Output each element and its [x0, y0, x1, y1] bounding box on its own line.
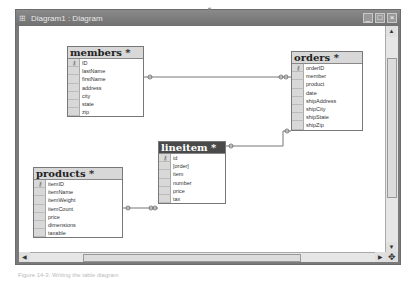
scroll-up-arrow[interactable]: ▲ — [386, 26, 397, 37]
diagram-window: ⊞ Diagram1 : Diagram _ □ × — [15, 9, 401, 265]
field-name: orderID — [304, 65, 324, 71]
field-name: city — [80, 93, 90, 99]
field-name: itemID — [46, 181, 64, 187]
field-name: shipState — [304, 114, 329, 120]
field-row[interactable]: ⚷itemID — [34, 180, 122, 188]
row-selector[interactable] — [34, 205, 46, 213]
row-selector[interactable] — [68, 84, 80, 92]
field-name: itemWeight — [46, 197, 75, 203]
row-selector[interactable] — [292, 121, 304, 129]
row-selector[interactable] — [68, 100, 80, 108]
diagram-canvas[interactable]: members * ⚷IDlastNamefirstNameaddresscit… — [19, 26, 386, 253]
row-selector[interactable] — [159, 195, 171, 203]
primary-key-icon[interactable]: ⚷ — [34, 180, 46, 188]
field-row[interactable]: price — [159, 187, 225, 195]
field-row[interactable]: itemWeight — [34, 196, 122, 204]
row-selector[interactable] — [292, 89, 304, 97]
vertical-scrollbar[interactable]: ▲ ▼ — [385, 26, 398, 253]
table-title: members * — [68, 47, 143, 59]
relationship-orders-lineitem[interactable] — [225, 129, 291, 148]
field-row[interactable]: [order] — [159, 162, 225, 170]
table-title: lineitem * — [159, 142, 225, 154]
primary-key-icon[interactable]: ⚷ — [292, 64, 304, 72]
field-name: date — [304, 90, 317, 96]
row-selector[interactable] — [68, 75, 80, 83]
field-row[interactable]: shipZip — [292, 121, 362, 129]
row-selector[interactable] — [292, 113, 304, 121]
scroll-left-arrow[interactable]: ◀ — [19, 252, 30, 262]
field-row[interactable]: date — [292, 89, 362, 97]
row-selector[interactable] — [68, 67, 80, 75]
row-selector[interactable] — [34, 213, 46, 221]
field-name: dimensions — [46, 222, 76, 228]
field-row[interactable]: member — [292, 72, 362, 80]
field-name: shipZip — [304, 122, 324, 128]
field-row[interactable]: tax — [159, 195, 225, 203]
field-row[interactable]: taxable — [34, 229, 122, 237]
field-row[interactable]: address — [68, 84, 143, 92]
row-selector[interactable] — [159, 179, 171, 187]
field-name: product — [304, 81, 324, 87]
field-name: price — [171, 188, 185, 194]
figure-caption: Figure 14-3: Writing the table diagram — [18, 272, 119, 278]
field-row[interactable]: shipState — [292, 113, 362, 121]
field-row[interactable]: firstName — [68, 75, 143, 83]
horizontal-scrollbar[interactable]: ◀ ▶ — [19, 252, 386, 262]
field-name: itemName — [46, 189, 73, 195]
table-orders[interactable]: orders * ⚷orderIDmemberproductdateshipAd… — [291, 51, 363, 131]
row-selector[interactable] — [68, 108, 80, 116]
field-name: tax — [171, 196, 180, 202]
primary-key-icon[interactable]: ⚷ — [159, 154, 171, 162]
field-name: address — [80, 85, 102, 91]
field-row[interactable]: city — [68, 92, 143, 100]
field-name: [order] — [171, 163, 189, 169]
field-row[interactable]: product — [292, 80, 362, 88]
row-selector[interactable] — [68, 92, 80, 100]
pan-move-icon[interactable]: ✥ — [385, 252, 398, 262]
table-lineitem[interactable]: lineitem * ⚷id[order]itemnumberpricetax — [158, 141, 226, 204]
row-selector[interactable] — [292, 97, 304, 105]
field-name: shipAddress — [304, 98, 336, 104]
row-selector[interactable] — [159, 170, 171, 178]
field-row[interactable]: ⚷id — [159, 154, 225, 162]
field-name: price — [46, 214, 60, 220]
relationship-members-orders[interactable] — [144, 75, 291, 79]
row-selector[interactable] — [34, 188, 46, 196]
row-selector[interactable] — [34, 229, 46, 237]
field-row[interactable]: shipAddress — [292, 97, 362, 105]
row-selector[interactable] — [292, 80, 304, 88]
field-row[interactable]: itemCount — [34, 205, 122, 213]
field-name: ID — [80, 60, 88, 66]
field-row[interactable]: dimensions — [34, 221, 122, 229]
field-row[interactable]: number — [159, 179, 225, 187]
table-members[interactable]: members * ⚷IDlastNamefirstNameaddresscit… — [67, 46, 144, 117]
field-row[interactable]: lastName — [68, 67, 143, 75]
field-row[interactable]: price — [34, 213, 122, 221]
row-selector[interactable] — [159, 162, 171, 170]
primary-key-icon[interactable]: ⚷ — [68, 59, 80, 67]
minimize-button[interactable]: _ — [363, 13, 373, 23]
row-selector[interactable] — [292, 105, 304, 113]
row-selector[interactable] — [34, 196, 46, 204]
relationship-products-lineitem[interactable] — [123, 206, 158, 210]
field-name: item — [171, 171, 183, 177]
field-row[interactable]: ⚷orderID — [292, 64, 362, 72]
field-row[interactable]: state — [68, 100, 143, 108]
field-name: number — [171, 180, 192, 186]
row-selector[interactable] — [159, 187, 171, 195]
field-name: firstName — [80, 76, 106, 82]
field-row[interactable]: zip — [68, 108, 143, 116]
field-row[interactable]: itemName — [34, 188, 122, 196]
horizontal-scroll-thumb[interactable] — [83, 254, 301, 262]
row-selector[interactable] — [292, 72, 304, 80]
field-row[interactable]: ⚷ID — [68, 59, 143, 67]
maximize-button[interactable]: □ — [375, 13, 385, 23]
field-name: state — [80, 101, 94, 107]
row-selector[interactable] — [34, 221, 46, 229]
field-row[interactable]: shipCity — [292, 105, 362, 113]
mouse-cursor-icon: ↖ — [207, 5, 215, 15]
vertical-scroll-thumb[interactable] — [387, 58, 397, 198]
table-products[interactable]: products * ⚷itemIDitemNameitemWeightitem… — [33, 167, 123, 238]
field-row[interactable]: item — [159, 170, 225, 178]
close-button[interactable]: × — [387, 13, 397, 23]
